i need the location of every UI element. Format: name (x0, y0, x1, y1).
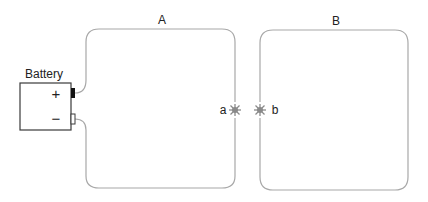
circuit-diagram: + − Battery A B a b (0, 0, 428, 202)
point-a-label: a (220, 103, 227, 117)
plus-sign: + (52, 85, 61, 102)
loop-b-label: B (332, 14, 340, 28)
spark-a-icon (229, 104, 241, 116)
battery-label: Battery (25, 67, 63, 81)
loop-a-upper-wire (75, 29, 235, 102)
battery-negative-terminal (71, 114, 75, 124)
battery: + − (20, 83, 75, 130)
loop-a-lower-wire (75, 118, 235, 188)
battery-positive-terminal (71, 88, 75, 98)
spark-b-icon (254, 104, 266, 116)
point-b-label: b (272, 103, 279, 117)
battery-body (20, 83, 71, 130)
loop-a-label: A (158, 13, 166, 27)
loop-b-wire (260, 30, 408, 190)
loop-b (260, 30, 408, 190)
loop-a (75, 29, 235, 188)
minus-sign: − (52, 110, 61, 127)
